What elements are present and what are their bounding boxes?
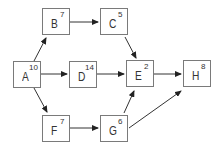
edge-g-h bbox=[129, 91, 181, 128]
node-h: H 8 bbox=[183, 60, 211, 87]
node-c: C 5 bbox=[100, 8, 128, 35]
node-b: B 7 bbox=[42, 8, 70, 35]
node-label: C bbox=[109, 18, 116, 30]
node-label: D bbox=[78, 71, 85, 83]
node-label: G bbox=[109, 125, 117, 137]
node-duration: 8 bbox=[201, 63, 205, 71]
node-label: E bbox=[135, 70, 142, 82]
node-duration: 6 bbox=[118, 118, 122, 126]
node-duration: 2 bbox=[144, 63, 148, 71]
node-a: A 10 bbox=[13, 61, 41, 88]
node-d: D 14 bbox=[69, 61, 97, 88]
node-duration: 7 bbox=[60, 11, 64, 19]
edge-a-b bbox=[34, 38, 46, 61]
node-e: E 2 bbox=[126, 60, 154, 87]
node-label: A bbox=[22, 71, 29, 83]
edge-a-f bbox=[34, 88, 47, 112]
node-f: F 7 bbox=[42, 115, 70, 142]
node-label: F bbox=[51, 125, 57, 137]
node-g: G 6 bbox=[100, 115, 128, 142]
edge-g-e bbox=[124, 91, 134, 113]
node-duration: 5 bbox=[118, 11, 122, 19]
edge-c-e bbox=[125, 37, 136, 58]
node-label: H bbox=[192, 70, 199, 82]
node-duration: 10 bbox=[29, 64, 38, 72]
node-duration: 14 bbox=[85, 64, 94, 72]
node-label: B bbox=[51, 18, 58, 30]
node-duration: 7 bbox=[60, 118, 64, 126]
